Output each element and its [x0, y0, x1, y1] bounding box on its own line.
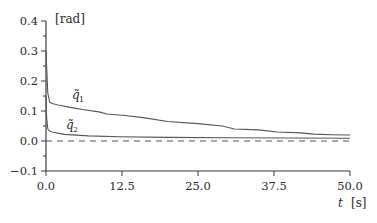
q1-label-subscript: 1 [79, 95, 84, 104]
y-tick-label: 0.0 [20, 134, 38, 148]
series-line-2 [46, 96, 350, 138]
y-tick-label: −0.1 [10, 164, 38, 178]
x-tick-label: 0.0 [37, 179, 55, 193]
y-tick-label: 0.2 [20, 74, 38, 88]
y-tick-label: 0.4 [20, 14, 38, 28]
x-axis-unit-label: [s] [351, 196, 367, 210]
y-axis-ticks: −0.10.00.10.20.30.4 [10, 14, 46, 178]
y-axis-unit-label: [rad] [55, 12, 85, 26]
series-lines [46, 51, 350, 141]
x-tick-label: 50.0 [337, 179, 363, 193]
x-tick-label: 37.5 [261, 179, 287, 193]
axes [46, 21, 350, 171]
series-label-q1: q̃ 1 [72, 88, 84, 104]
x-tick-label: 12.5 [109, 179, 135, 193]
y-tick-label: 0.3 [20, 44, 38, 58]
line-chart: −0.10.00.10.20.30.4 0.012.525.037.550.0 … [0, 0, 377, 223]
y-tick-label: 0.1 [20, 104, 38, 118]
series-label-q2: q̃ 2 [66, 118, 78, 134]
q2-label-subscript: 2 [73, 125, 78, 134]
x-tick-label: 25.0 [185, 179, 211, 193]
x-axis-variable-label: t [338, 196, 343, 210]
series-line-1 [46, 51, 350, 135]
x-axis-ticks: 0.012.525.037.550.0 [37, 171, 363, 193]
